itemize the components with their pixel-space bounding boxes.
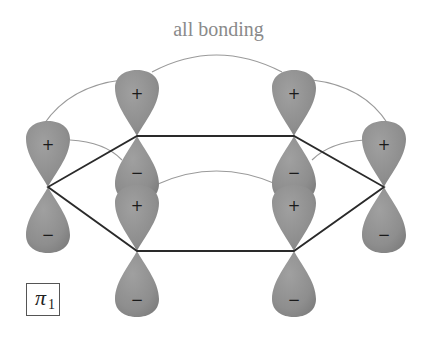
- plus-sign: +: [378, 136, 391, 154]
- benzene-ring: [48, 136, 384, 251]
- plus-sign: +: [288, 197, 301, 215]
- plus-sign: +: [131, 85, 144, 103]
- minus-sign: −: [131, 291, 144, 309]
- minus-sign: −: [42, 226, 55, 244]
- lobe-positive: [115, 70, 159, 136]
- minus-sign: −: [288, 291, 301, 309]
- plus-sign: +: [131, 197, 144, 215]
- minus-sign: −: [378, 226, 391, 244]
- minus-sign: −: [288, 164, 301, 182]
- plus-sign: +: [288, 85, 301, 103]
- orbital-label-box: π 1: [26, 283, 60, 316]
- benzene-pi-orbital-diagram: + − + − + − + − + − + −: [0, 0, 437, 344]
- overlap-arcs: [44, 55, 388, 184]
- minus-sign: −: [131, 164, 144, 182]
- orbital-index: 1: [48, 297, 55, 313]
- pi-symbol: π: [35, 285, 46, 311]
- plus-sign: +: [42, 136, 55, 154]
